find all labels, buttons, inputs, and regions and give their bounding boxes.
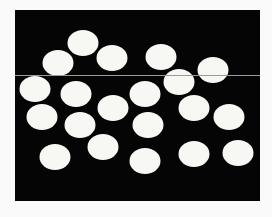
white-circle bbox=[20, 76, 51, 102]
white-circle bbox=[214, 104, 245, 130]
white-circle bbox=[133, 112, 164, 138]
white-circle bbox=[179, 95, 210, 121]
white-circle bbox=[130, 148, 161, 174]
white-circle bbox=[27, 104, 58, 130]
white-circle bbox=[146, 44, 177, 70]
white-circle bbox=[65, 112, 96, 138]
white-circle bbox=[198, 57, 229, 83]
white-circle bbox=[88, 134, 119, 160]
white-circle bbox=[43, 50, 74, 76]
white-circle bbox=[68, 30, 99, 56]
white-circle bbox=[164, 69, 195, 95]
white-circle bbox=[130, 81, 161, 107]
white-circle bbox=[179, 141, 210, 167]
white-circle bbox=[98, 95, 129, 121]
white-circle bbox=[40, 144, 71, 170]
white-circle bbox=[61, 81, 92, 107]
white-circle bbox=[223, 140, 254, 166]
image-canvas bbox=[0, 0, 272, 217]
circles-figure bbox=[0, 0, 272, 217]
white-circle bbox=[97, 45, 128, 71]
